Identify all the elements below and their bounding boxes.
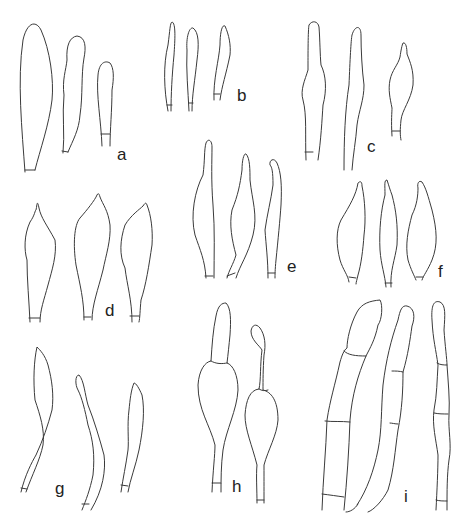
panel-label-h: h xyxy=(232,478,241,495)
drawing-canvas xyxy=(0,0,463,525)
panel-c-drawings xyxy=(302,22,413,170)
cystidia-figure: a b c d e f g h i xyxy=(0,0,463,525)
panel-d-drawings xyxy=(25,194,152,322)
panel-i-drawings xyxy=(322,300,450,512)
panel-label-f: f xyxy=(438,263,443,280)
panel-label-b: b xyxy=(237,87,246,104)
panel-a-drawings xyxy=(20,24,113,172)
panel-label-i: i xyxy=(404,488,408,505)
panel-label-a: a xyxy=(117,146,126,163)
panel-g-drawings xyxy=(21,347,143,510)
panel-label-e: e xyxy=(287,258,296,275)
panel-b-drawings xyxy=(165,22,231,111)
panel-label-g: g xyxy=(55,480,64,497)
panel-label-d: d xyxy=(105,302,114,319)
panel-h-drawings xyxy=(198,303,278,503)
panel-e-drawings xyxy=(193,140,281,278)
panel-label-c: c xyxy=(367,138,376,155)
panel-f-drawings xyxy=(337,180,436,287)
